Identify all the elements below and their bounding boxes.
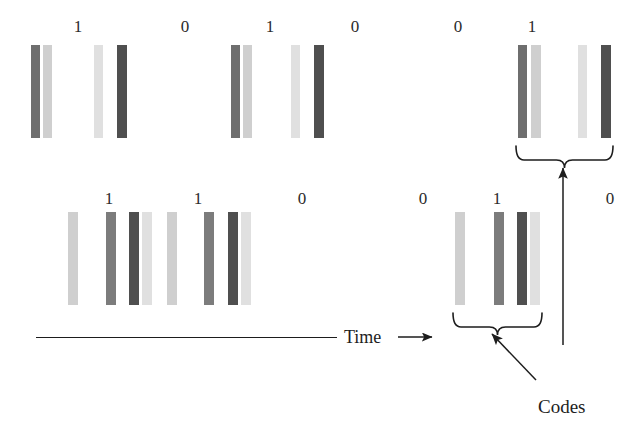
arrow-to-bottom-codes <box>492 334 536 380</box>
code-bar <box>530 212 540 305</box>
code-bar <box>228 212 238 305</box>
bit-label: 0 <box>415 190 431 207</box>
bit-label: 0 <box>602 190 618 207</box>
code-bar <box>314 45 324 138</box>
bit-label: 0 <box>347 18 363 35</box>
bit-label: 1 <box>489 190 505 207</box>
code-bar <box>204 212 214 305</box>
code-bar <box>117 45 127 138</box>
code-bar <box>494 212 504 305</box>
time-axis-line <box>36 337 337 338</box>
bit-label: 1 <box>190 190 206 207</box>
bit-label: 0 <box>294 190 310 207</box>
code-bar <box>455 212 465 305</box>
brace-bottom-codes <box>453 313 542 335</box>
code-bar <box>291 45 300 138</box>
time-axis-label: Time <box>344 327 381 348</box>
bit-label: 0 <box>177 18 193 35</box>
code-bar <box>68 212 78 305</box>
code-bar <box>241 212 251 305</box>
brace-top-codes <box>516 146 613 168</box>
bit-label: 0 <box>450 18 466 35</box>
code-bar <box>518 45 527 138</box>
figure-canvas: 101001 110010 Time Codes <box>0 0 644 435</box>
code-bar <box>43 45 52 138</box>
code-bar <box>243 45 252 138</box>
code-bar <box>578 45 587 138</box>
code-bar <box>31 45 40 138</box>
code-bar <box>231 45 240 138</box>
bit-label: 1 <box>524 18 540 35</box>
code-bar <box>129 212 139 305</box>
code-bar <box>94 45 103 138</box>
code-bar <box>167 212 177 305</box>
bit-label: 1 <box>101 190 117 207</box>
bit-label: 1 <box>262 18 278 35</box>
code-bar <box>517 212 527 305</box>
code-bar <box>531 45 541 138</box>
code-bar <box>142 212 152 305</box>
code-bar <box>601 45 611 138</box>
code-bar <box>106 212 116 305</box>
codes-label: Codes <box>538 396 586 418</box>
bit-label: 1 <box>70 18 86 35</box>
